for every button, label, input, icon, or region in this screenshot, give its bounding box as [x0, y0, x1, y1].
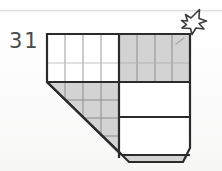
diagram-canvas: 31	[0, 0, 222, 171]
region-middle-right-white	[119, 83, 190, 117]
region-lower-right-white	[119, 117, 190, 155]
arrow-cursor-icon[interactable]	[176, 7, 210, 39]
page-number-label: 31	[9, 31, 40, 52]
